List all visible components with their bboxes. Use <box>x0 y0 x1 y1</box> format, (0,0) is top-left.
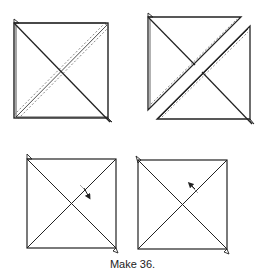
quilt-block-diagram <box>0 0 265 275</box>
stitch-line <box>151 19 237 104</box>
panel-bottom-left <box>27 154 118 253</box>
press-direction-arrow-icon <box>190 184 195 189</box>
diagonal-line <box>14 23 110 122</box>
dog-ear <box>27 154 32 159</box>
figure-caption: Make 36. <box>0 258 265 270</box>
dog-ear <box>113 248 118 253</box>
panel-top-left <box>14 19 112 122</box>
panel-top-right <box>148 13 254 124</box>
dog-ear <box>224 249 229 254</box>
press-direction-arrow-icon <box>84 188 89 197</box>
panel-bottom-right <box>136 156 229 254</box>
